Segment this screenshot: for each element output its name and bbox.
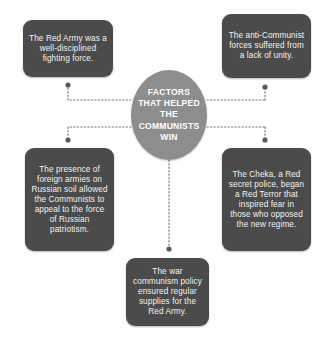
central-topic-label: FACTORSTHAT HELPEDTHECOMMUNISTSWIN [131, 87, 207, 144]
factor-node-anti-communist-disunity: The anti-Communist forces suffered from … [222, 14, 311, 78]
factor-node-text: The presence of foreign armies on Russia… [31, 165, 108, 235]
connector-dot-top-right [262, 84, 267, 89]
factor-node-text: The Red Army was a well-disciplined figh… [29, 34, 107, 64]
factor-node-cheka-red-terror: The Cheka, a Red secret police, began a … [222, 148, 311, 251]
concept-map-diagram: The Red Army was a well-disciplined figh… [0, 0, 329, 340]
factor-node-text: The anti-Communist forces suffered from … [228, 31, 305, 61]
connector-dot-bottom [166, 246, 171, 251]
connector-dot-top-left [65, 82, 70, 87]
factor-node-foreign-armies-patriotism: The presence of foreign armies on Russia… [25, 148, 114, 251]
central-topic-circle: FACTORSTHAT HELPEDTHECOMMUNISTSWIN [131, 70, 207, 160]
factor-node-text: The Cheka, a Red secret police, began a … [228, 170, 305, 230]
factor-node-red-army: The Red Army was a well-disciplined figh… [23, 20, 113, 77]
connector-dot-right [262, 137, 267, 142]
connector-dot-left [65, 137, 70, 142]
factor-node-war-communism: The war communism policy ensured regular… [126, 258, 209, 326]
factor-node-text: The war communism policy ensured regular… [132, 267, 203, 317]
